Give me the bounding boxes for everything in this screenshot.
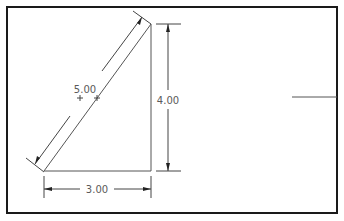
arrowhead-icon: [35, 156, 40, 164]
base-label: 3.00: [86, 184, 108, 195]
center-marks: [77, 95, 100, 101]
hypotenuse-label: 5.00: [74, 84, 96, 95]
extension-line-lower: [26, 158, 44, 172]
arrowhead-icon: [166, 163, 170, 171]
drawing-frame: [7, 7, 337, 213]
arrowhead-icon: [137, 17, 142, 25]
height-label: 4.00: [157, 95, 179, 106]
arrowhead-icon: [166, 24, 170, 32]
arrowhead-icon: [143, 187, 151, 191]
arrowhead-icon: [44, 187, 52, 191]
dimension-line-lower: [35, 116, 70, 164]
cad-drawing: 5.00 4.00 3.00: [0, 0, 344, 221]
